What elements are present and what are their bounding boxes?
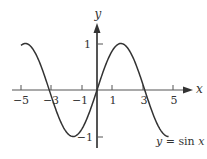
x-tick-label: 1 — [110, 94, 117, 107]
caption-x: x — [198, 135, 205, 148]
x-axis-arrow-icon — [183, 87, 193, 94]
y-axis-arrow-icon — [94, 23, 101, 33]
y-axis-label: y — [94, 7, 102, 21]
x-tick-label: −1 — [72, 94, 88, 107]
caption-eq: = sin — [162, 135, 198, 148]
x-axis-label: x — [196, 82, 203, 96]
y-tick-label: 1 — [84, 38, 91, 51]
function-caption: y = sin x — [155, 135, 205, 148]
x-tick-label: −5 — [13, 94, 29, 107]
sine-chart: −5 −3 −1 1 3 5 1 −1 x y y = sin x — [0, 0, 207, 159]
x-tick-label: 5 — [171, 94, 178, 107]
